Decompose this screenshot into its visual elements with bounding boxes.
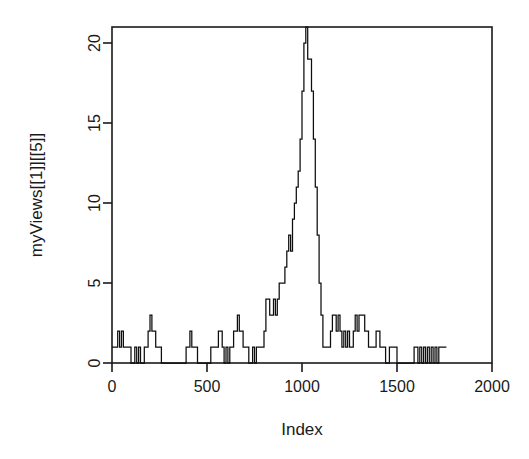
x-tick-label: 1500 [379,378,415,395]
r-plot-canvas: 0500100015002000 05101520 Index myViews[… [0,0,529,459]
step-plot-figure: 0500100015002000 05101520 Index myViews[… [0,0,529,459]
x-tick-label: 0 [108,378,117,395]
plot-background [0,0,529,459]
y-axis-title: myViews[[1]][[5]] [27,133,46,257]
x-axis-title: Index [281,420,323,439]
y-tick-label: 15 [86,114,103,132]
y-tick-label: 0 [86,358,103,367]
y-tick-label: 5 [86,278,103,287]
x-tick-label: 500 [194,378,221,395]
y-tick-label: 20 [86,34,103,52]
x-tick-label: 1000 [284,378,320,395]
x-tick-label: 2000 [474,378,510,395]
y-tick-label: 10 [86,194,103,212]
